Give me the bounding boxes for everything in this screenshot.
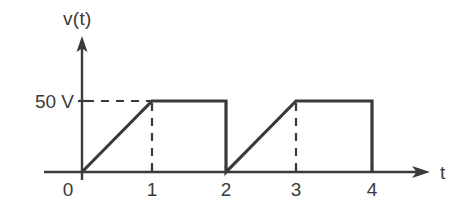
level-label-50v: 50 V (35, 91, 74, 112)
waveform-plot: v(t) t 50 V 0 1 2 3 4 (0, 0, 466, 222)
y-axis-label: v(t) (63, 8, 92, 29)
x-tick-label-4: 4 (367, 179, 378, 200)
x-tick-label-3: 3 (291, 179, 302, 200)
waveform-trace (82, 101, 372, 172)
x-tick-label-0: 0 (63, 179, 74, 200)
x-tick-label-1: 1 (147, 179, 158, 200)
x-tick-label-2: 2 (221, 179, 232, 200)
x-axis-label: t (440, 162, 446, 183)
waveform-figure: v(t) t 50 V 0 1 2 3 4 (0, 0, 466, 222)
